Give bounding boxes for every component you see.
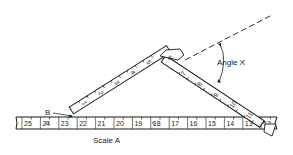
- scale-a-number: 23: [61, 120, 69, 127]
- scale-a-number: 21: [98, 120, 106, 127]
- scale-a-number: 14: [226, 120, 234, 127]
- arrowhead-icon: [217, 79, 221, 83]
- point-b-label: B: [45, 108, 50, 117]
- extension-line: [185, 15, 272, 60]
- diagram-canvas: 2524232221201918171615141312 12345 78910…: [0, 0, 293, 155]
- angle-x-label: Angle X: [217, 58, 246, 67]
- rivet-icon: [46, 122, 49, 125]
- scale-a-number: 17: [171, 120, 179, 127]
- scale-a-number: 19: [134, 120, 142, 127]
- scale-a-label: Scale A: [93, 136, 121, 145]
- rivet-icon: [153, 122, 156, 125]
- folding-rule-diagram: 2524232221201918171615141312 12345 78910…: [0, 0, 293, 155]
- scale-end-hinge: [264, 124, 276, 136]
- arrowhead-icon: [218, 43, 221, 47]
- left-arm: 12345: [69, 46, 170, 114]
- scale-a-number: 25: [24, 120, 32, 127]
- right-arm: 7891011: [161, 55, 264, 127]
- scale-a-number: 22: [79, 120, 87, 127]
- scale-a-number: 20: [116, 120, 124, 127]
- scale-a-bar: 2524232221201918171615141312: [16, 117, 277, 136]
- scale-a-number: 15: [208, 120, 216, 127]
- scale-a-number: 16: [190, 120, 198, 127]
